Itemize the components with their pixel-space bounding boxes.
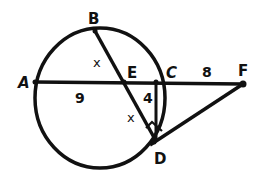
measure-EC: 4: [143, 90, 153, 106]
label-F: F: [238, 62, 248, 80]
label-B: B: [88, 10, 99, 28]
label-D: D: [154, 150, 166, 168]
label-C: C: [166, 64, 177, 82]
secant-AF: [35, 82, 243, 84]
label-A: A: [17, 74, 30, 92]
measure-ED: x: [127, 110, 135, 125]
measure-CF: 8: [202, 64, 212, 80]
point-F-dot: [240, 81, 247, 88]
point-B-dot: [93, 29, 98, 34]
measure-BE: x: [93, 55, 101, 70]
point-C-dot: [154, 80, 159, 85]
point-D-dot: [152, 140, 157, 145]
geometry-diagram: A B E C F D 9 4 8 x x: [0, 0, 263, 181]
measure-AE: 9: [75, 90, 85, 106]
point-E-dot: [122, 80, 127, 85]
point-A-dot: [33, 80, 38, 85]
label-E: E: [127, 64, 137, 82]
